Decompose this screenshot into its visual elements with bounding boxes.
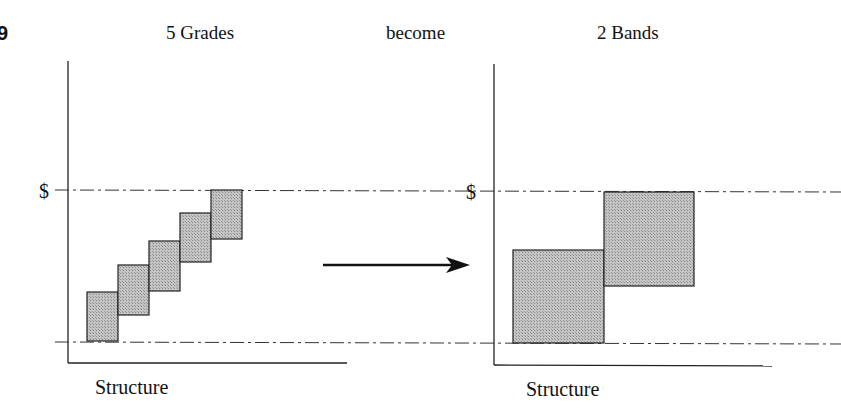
right-arrow-icon [323, 257, 470, 273]
band-boxes [513, 192, 694, 343]
grade-boxes [87, 190, 242, 341]
diagram-canvas [0, 0, 841, 419]
